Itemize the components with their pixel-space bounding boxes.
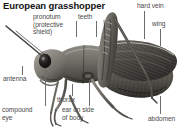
label-antenna: antenna xyxy=(3,75,27,83)
label-hard-vein: hard vein xyxy=(137,2,164,10)
grasshopper-diagram: European grasshopper pronotum (protectiv… xyxy=(0,0,182,128)
label-pronotum: pronotum (protective shield) xyxy=(33,13,63,36)
label-wing: wing xyxy=(152,20,165,28)
leader-line-compound-eye xyxy=(45,70,46,106)
label-teeth: teeth xyxy=(78,13,92,21)
leader-line-teeth xyxy=(96,21,97,37)
page-title: European grasshopper xyxy=(3,0,105,12)
leader-line-wing xyxy=(160,29,161,46)
leader-line-ear xyxy=(89,80,90,106)
leader-line-thorax xyxy=(72,84,73,96)
leader-line-abdomen xyxy=(160,96,161,114)
label-compound-eye: compound eye xyxy=(2,106,32,121)
leader-line-hard-vein xyxy=(144,11,145,39)
leader-line-pronotum xyxy=(76,21,77,37)
label-abdomen: abdomen xyxy=(148,115,175,123)
label-ear: ear on side of body xyxy=(62,106,94,121)
label-thorax: thorax xyxy=(57,96,75,104)
leader-line-antenna xyxy=(22,66,23,75)
